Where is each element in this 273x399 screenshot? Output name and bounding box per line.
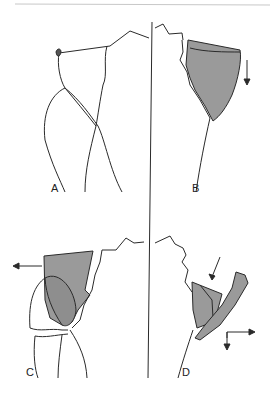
- panel-b: [155, 24, 250, 192]
- panel-d: [155, 236, 255, 378]
- panel-label-b: B: [192, 182, 199, 194]
- panel-label-a: A: [51, 182, 59, 194]
- panel-divider: [148, 22, 152, 378]
- panel-label-d: D: [182, 366, 190, 378]
- panel-a: [44, 31, 149, 192]
- panel-label-c: C: [26, 366, 34, 378]
- panel-c: [13, 238, 144, 378]
- top-rule: [15, 4, 270, 5]
- fracture-diagram: A B C D: [0, 0, 273, 399]
